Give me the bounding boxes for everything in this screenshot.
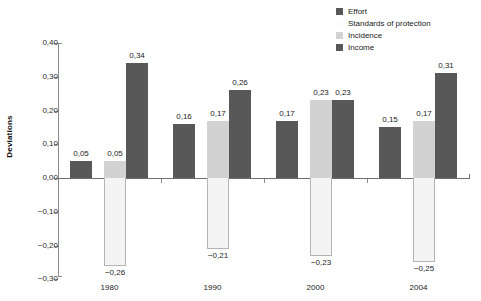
bar-value-label: 0,15	[373, 116, 407, 124]
bar-value-label: 0,34	[120, 52, 154, 60]
y-axis-tick-label-wrap: 0,10	[0, 140, 58, 148]
y-axis-line	[58, 43, 59, 277]
bar-effort-2004	[379, 127, 401, 178]
bar-value-label: −0,21	[201, 252, 235, 260]
legend-label-incidence: Incidence	[348, 31, 382, 40]
y-axis-tick-label: −0,30	[12, 275, 58, 283]
y-axis-tick-label: −0,10	[12, 208, 58, 216]
y-axis-tick-label: 0,20	[12, 107, 58, 115]
category-label-2000: 2000	[264, 283, 367, 292]
legend-swatch-income	[336, 44, 343, 51]
y-axis-tick-label-wrap: 0,00	[0, 174, 58, 182]
y-axis-tick-label-wrap: −0,30	[0, 275, 58, 283]
bar-standards-2004	[413, 178, 435, 262]
legend-item-standards-of-protection: Standards of protection	[336, 18, 476, 29]
bar-effort-1990	[173, 124, 195, 178]
bar-incidence-1990	[207, 121, 229, 178]
bar-standards-1990	[207, 178, 229, 249]
y-axis-tick-label-wrap: 0,20	[0, 107, 58, 115]
bar-value-label: 0,16	[167, 113, 201, 121]
y-axis-tick-label-wrap: 0,30	[0, 73, 58, 81]
legend-swatch-effort	[336, 8, 343, 15]
bar-value-label: 0,26	[223, 79, 257, 87]
bar-value-label: 0,31	[429, 62, 463, 70]
legend-swatch-incidence	[336, 32, 343, 39]
bar-standards-1980	[104, 178, 126, 266]
bar-value-label: 0,17	[270, 110, 304, 118]
chart-legend: Effort Standards of protection Incidence…	[336, 6, 476, 54]
y-axis-bottom-cap	[58, 276, 62, 277]
legend-item-incidence: Incidence	[336, 30, 476, 41]
bar-incidence-2004	[413, 121, 435, 178]
y-axis-tick-label-wrap: 0,40	[0, 39, 58, 47]
legend-item-effort: Effort	[336, 6, 476, 17]
bar-value-label: 0,05	[64, 150, 98, 158]
bar-value-label: −0,26	[98, 269, 132, 277]
bar-income-1990	[229, 90, 251, 178]
category-label-1980: 1980	[58, 283, 161, 292]
bar-value-label: 0,23	[326, 89, 360, 97]
y-axis-tick-label: 0,30	[12, 73, 58, 81]
legend-item-income: Income	[336, 42, 476, 53]
bar-effort-2000	[276, 121, 298, 178]
category-label-1990: 1990	[161, 283, 264, 292]
bar-standards-2000	[310, 178, 332, 256]
y-axis-tick-label: 0,40	[12, 39, 58, 47]
bar-income-2000	[332, 100, 354, 178]
legend-label-income: Income	[348, 43, 374, 52]
y-axis-tick-label: 0,00	[12, 174, 58, 182]
bar-incidence-2000	[310, 100, 332, 178]
bar-incidence-1980	[104, 161, 126, 178]
y-axis-tick-label-wrap: −0,10	[0, 208, 58, 216]
y-axis-tick-label: 0,10	[12, 140, 58, 148]
legend-swatch-standards-of-protection	[336, 20, 343, 27]
zero-baseline-end-tick	[469, 174, 470, 179]
bar-income-2004	[435, 73, 457, 178]
category-separator-tick	[367, 179, 368, 183]
bar-effort-1980	[70, 161, 92, 178]
bar-income-1980	[126, 63, 148, 178]
bar-value-label: −0,23	[304, 259, 338, 267]
category-label-2004: 2004	[367, 283, 470, 292]
y-axis-top-cap	[58, 43, 62, 44]
bar-chart: Effort Standards of protection Incidence…	[0, 0, 481, 301]
bar-value-label: −0,25	[407, 265, 441, 273]
category-separator-tick	[161, 179, 162, 183]
legend-label-standards-of-protection: Standards of protection	[348, 19, 431, 28]
legend-label-effort: Effort	[348, 7, 367, 16]
y-axis-tick-label: −0,20	[12, 242, 58, 250]
y-axis-tick-label-wrap: −0,20	[0, 242, 58, 250]
category-separator-tick	[264, 179, 265, 183]
